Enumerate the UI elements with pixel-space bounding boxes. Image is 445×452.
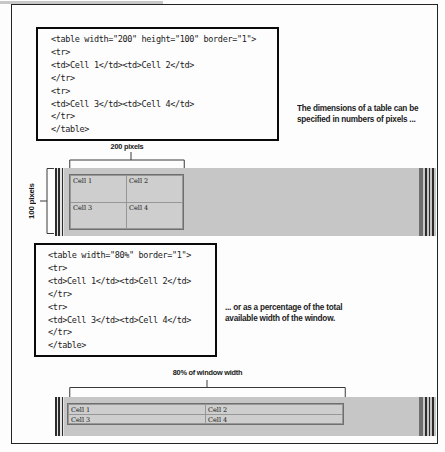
caption-line: ... or as a percentage of the total <box>225 302 342 313</box>
width-measure-bracket-200 <box>69 152 185 169</box>
browser-window-strip-1: Cell 1 Cell 2 Cell 3 Cell 4 <box>55 168 436 236</box>
width-label-80-percent: 80% of window width <box>80 368 335 377</box>
table-cell: Cell 3 <box>69 415 205 424</box>
table-cell: Cell 2 <box>206 405 342 414</box>
window-border-left <box>55 168 64 236</box>
code-line: </tr> <box>48 288 215 301</box>
table-cell: Cell 2 <box>127 176 182 202</box>
width-label-200-pixels: 200 pixels <box>74 142 181 151</box>
window-scrollbar-right <box>419 397 436 436</box>
code-line: </tr> <box>48 326 215 339</box>
code-line: <tr> <box>48 301 215 314</box>
figure-frame: <table width="200" height="100" border="… <box>11 4 438 444</box>
code-line: <td>Cell 1</td><td>Cell 2</td> <box>48 275 215 288</box>
caption-line: available width of the window. <box>225 313 342 324</box>
code-line: <td>Cell 1</td><td>Cell 2</td> <box>51 59 277 72</box>
table-cell: Cell 4 <box>127 203 182 229</box>
code-line: </table> <box>48 339 215 352</box>
code-box-pixel-table: <table width="200" height="100" border="… <box>36 27 279 141</box>
rendered-table-200x100: Cell 1 Cell 2 Cell 3 Cell 4 <box>69 174 184 230</box>
code-line: <tr> <box>51 46 277 59</box>
figure-page: <table width="200" height="100" border="… <box>0 0 445 452</box>
code-line: <td>Cell 3</td><td>Cell 4</td> <box>51 98 277 111</box>
code-line: </table> <box>51 123 277 136</box>
code-line: </tr> <box>51 110 277 123</box>
window-border-left <box>55 397 64 436</box>
code-line: <table width="200" height="100" border="… <box>51 33 277 46</box>
rendered-table-80-percent: Cell 1 Cell 2 Cell 3 Cell 4 <box>67 403 344 425</box>
code-line: <tr> <box>51 85 277 98</box>
table-cell: Cell 3 <box>71 203 126 229</box>
code-line: <tr> <box>48 262 215 275</box>
code-line: <table width="80%" border="1"> <box>48 249 215 262</box>
caption-line: specified in numbers of pixels ... <box>297 114 418 125</box>
table-cell: Cell 1 <box>71 176 126 202</box>
caption-pixels: The dimensions of a table can be specifi… <box>297 103 418 124</box>
code-line: </tr> <box>51 72 277 85</box>
height-measure-bracket-100 <box>39 168 55 234</box>
table-cell: Cell 1 <box>69 405 205 414</box>
browser-window-strip-2: Cell 1 Cell 2 Cell 3 Cell 4 <box>55 397 436 436</box>
width-measure-bracket-80 <box>69 380 346 398</box>
height-label-100-pixels: 100 pixels <box>26 169 37 233</box>
table-cell: Cell 4 <box>206 415 342 424</box>
code-box-percent-table: <table width="80%" border="1"> <tr> <td>… <box>34 243 217 357</box>
window-scrollbar-right <box>419 168 436 236</box>
code-line: <td>Cell 3</td><td>Cell 4</td> <box>48 314 215 327</box>
caption-percent: ... or as a percentage of the total avai… <box>225 302 342 323</box>
caption-line: The dimensions of a table can be <box>297 103 418 114</box>
